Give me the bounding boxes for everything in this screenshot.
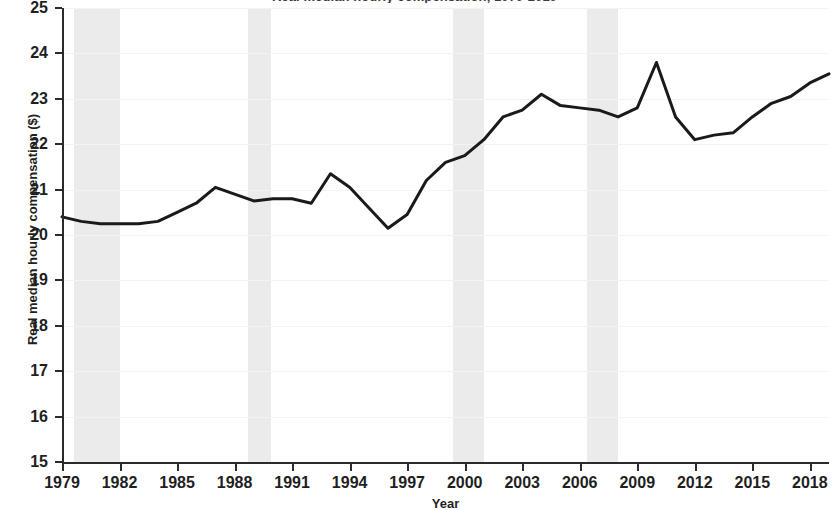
y-axis-title: Real median hourly compensation ($) xyxy=(25,15,40,445)
x-tick-label-1988: 1988 xyxy=(205,474,265,492)
y-tick-25 xyxy=(55,7,62,9)
x-tick-label-1985: 1985 xyxy=(147,474,207,492)
x-tick-2006 xyxy=(580,463,582,471)
y-tick-17 xyxy=(55,370,62,372)
y-tick-15 xyxy=(55,461,62,463)
x-tick-2012 xyxy=(695,463,697,471)
y-axis-line xyxy=(62,8,64,463)
x-tick-label-2012: 2012 xyxy=(665,474,725,492)
x-tick-label-2009: 2009 xyxy=(607,474,667,492)
x-tick-1979 xyxy=(62,463,64,471)
y-tick-23 xyxy=(55,98,62,100)
x-tick-1985 xyxy=(177,463,179,471)
y-tick-22 xyxy=(55,143,62,145)
y-tick-20 xyxy=(55,234,62,236)
x-axis-title: Year xyxy=(62,496,829,510)
y-tick-label-15: 15 xyxy=(4,454,48,470)
x-tick-2009 xyxy=(637,463,639,471)
x-tick-label-1982: 1982 xyxy=(90,474,150,492)
x-tick-1997 xyxy=(407,463,409,471)
x-tick-1994 xyxy=(350,463,352,471)
x-tick-2018 xyxy=(810,463,812,471)
series-line-layer xyxy=(62,8,829,462)
y-tick-16 xyxy=(55,416,62,418)
x-tick-label-2006: 2006 xyxy=(550,474,610,492)
x-tick-2015 xyxy=(752,463,754,471)
x-tick-label-1991: 1991 xyxy=(262,474,322,492)
x-tick-label-2000: 2000 xyxy=(435,474,495,492)
x-tick-2000 xyxy=(465,463,467,471)
plot-area xyxy=(62,8,829,462)
series-line-real-median-hourly-compensation xyxy=(62,62,829,228)
x-tick-label-1997: 1997 xyxy=(377,474,437,492)
x-tick-label-1994: 1994 xyxy=(320,474,380,492)
y-tick-24 xyxy=(55,52,62,54)
chart-title: Real median hourly compensation, 1979-20… xyxy=(0,0,829,3)
x-tick-1991 xyxy=(292,463,294,471)
x-tick-1982 xyxy=(120,463,122,471)
x-tick-1988 xyxy=(235,463,237,471)
x-tick-label-2015: 2015 xyxy=(722,474,782,492)
x-tick-label-2003: 2003 xyxy=(492,474,552,492)
y-tick-18 xyxy=(55,325,62,327)
y-tick-label-holder: 15 xyxy=(0,454,48,470)
x-tick-label-1979: 1979 xyxy=(32,474,92,492)
y-tick-21 xyxy=(55,189,62,191)
x-tick-2003 xyxy=(522,463,524,471)
y-tick-19 xyxy=(55,279,62,281)
x-tick-label-2018: 2018 xyxy=(780,474,835,492)
